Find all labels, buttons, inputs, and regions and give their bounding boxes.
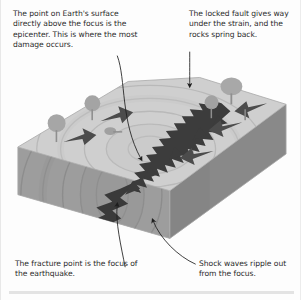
fault-line-focus-tip (75, 235, 97, 251)
annotation-shock-waves: Shock waves ripple out from the focus. (199, 259, 299, 280)
annotation-locked-fault: The locked fault gives way under the str… (189, 9, 293, 40)
tree (244, 109, 246, 120)
page-bottom-rule (9, 291, 294, 294)
annotation-focus: The fracture point is the focus of the e… (15, 259, 145, 280)
figure-page: The point on Earth's surface directly ab… (0, 0, 301, 300)
annotation-epicenter: The point on Earth's surface directly ab… (13, 9, 143, 50)
